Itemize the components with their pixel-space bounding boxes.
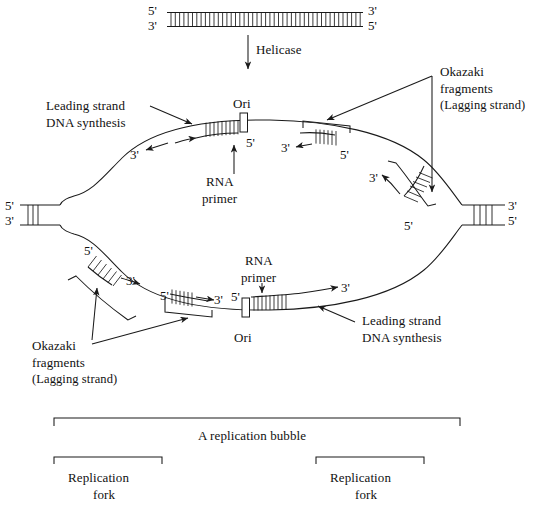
duplex-top-right-5prime: 5' xyxy=(368,18,377,33)
right-fork-duplex xyxy=(462,205,505,225)
fork-left-5prime: 5' xyxy=(5,198,14,213)
duplex-top-right-3prime: 3' xyxy=(368,3,377,18)
okazaki-bottom-leader-lines xyxy=(92,288,188,344)
fork-right-3prime: 3' xyxy=(508,198,517,213)
okazaki-bottom-label-line3: (Lagging strand) xyxy=(32,372,117,387)
replication-bubble-label: A replication bubble xyxy=(198,428,306,443)
leading-bottom-leader-line xyxy=(318,306,355,322)
okazaki-top-1-3prime: 3' xyxy=(281,140,290,155)
okazaki-top-leader-lines xyxy=(327,76,432,192)
replication-fork-left-label-line2: fork xyxy=(93,487,115,502)
leading-strand-bottom-new xyxy=(251,287,338,297)
ori-top-5prime: 5' xyxy=(246,135,255,150)
okazaki-bottom-label-line1: Okazaki xyxy=(32,338,76,353)
leading-top-3prime-label: 3' xyxy=(130,147,139,162)
fork-right-5prime: 5' xyxy=(508,213,517,228)
okazaki-top-1-5prime: 5' xyxy=(340,147,349,162)
okazaki-top-label-line2: fragments xyxy=(440,81,493,96)
replication-fork-bracket-right xyxy=(316,457,424,464)
replication-bubble-bracket xyxy=(54,418,460,426)
helicase-label: Helicase xyxy=(256,42,302,57)
okazaki-bottom-2-5prime: 5' xyxy=(160,288,169,303)
ori-bottom-5prime: 5' xyxy=(231,289,240,304)
okazaki-bottom-1-3prime: 3' xyxy=(126,273,135,288)
left-fork-duplex xyxy=(20,205,60,225)
leading-strand-bottom-label-line1: Leading strand xyxy=(362,313,441,328)
leading-strand-top-label-line1: Leading strand xyxy=(46,98,125,113)
okazaki-top-label-line3: (Lagging strand) xyxy=(440,98,525,113)
okazaki-top-2-5prime: 5' xyxy=(404,218,413,233)
parent-duplex-rungs xyxy=(171,13,360,27)
duplex-top-left-3prime: 3' xyxy=(148,18,157,33)
replication-fork-bracket-left xyxy=(54,457,162,464)
okazaki-top-2-3prime: 3' xyxy=(369,170,378,185)
ori-top-label: Ori xyxy=(233,96,251,111)
figure-canvas: 5' 3' 3' 5' Helicase Leading strand DNA … xyxy=(0,0,541,522)
rna-primer-top-label-line2: primer xyxy=(202,191,237,206)
replication-fork-left-label-line1: Replication xyxy=(68,470,129,485)
replication-fork-right-label-line2: fork xyxy=(355,487,377,502)
rna-primer-bottom-label-line1: RNA xyxy=(245,253,273,268)
bubble-upper-template xyxy=(60,120,462,205)
rna-primer-top-label-line1: RNA xyxy=(206,174,234,189)
fork-left-3prime: 3' xyxy=(5,213,14,228)
duplex-top-left-5prime: 5' xyxy=(148,3,157,18)
leading-bottom-3prime-label: 3' xyxy=(341,280,350,295)
okazaki-bottom-2 xyxy=(170,290,214,307)
okazaki-top-2 xyxy=(382,166,433,202)
leading-strand-top-label-line2: DNA synthesis xyxy=(46,115,126,130)
ori-bottom-label: Ori xyxy=(234,330,252,345)
rna-primer-bottom-label-line2: primer xyxy=(241,270,276,285)
okazaki-bottom-label-line2: fragments xyxy=(32,355,85,370)
leading-strand-bottom-label-line2: DNA synthesis xyxy=(362,330,442,345)
replication-fork-right-label-line1: Replication xyxy=(330,470,391,485)
ori-top-marker xyxy=(240,113,248,132)
leading-strand-top-new xyxy=(175,133,238,143)
ori-bottom-marker xyxy=(242,298,250,317)
leading-top-leader-line xyxy=(150,106,192,124)
parent-duplex xyxy=(167,13,363,27)
okazaki-bottom-2-3prime: 3' xyxy=(214,292,223,307)
okazaki-bottom-1-5prime: 5' xyxy=(84,243,93,258)
okazaki-top-label-line1: Okazaki xyxy=(440,64,484,79)
leading-top-3prime-arrow xyxy=(146,143,168,150)
okazaki-top-1 xyxy=(296,129,336,147)
